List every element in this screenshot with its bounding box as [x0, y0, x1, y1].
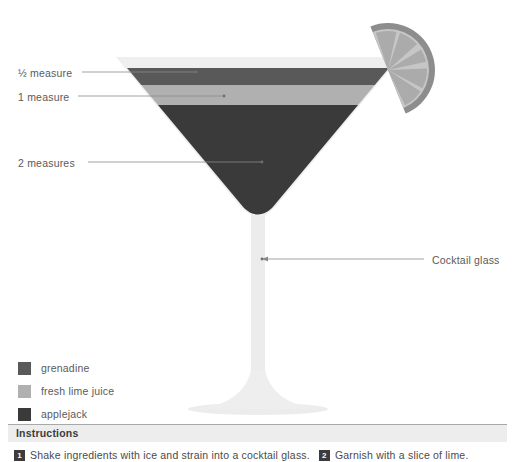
cocktail-diagram-page: ½ measure 1 measure 2 measures Cocktail … — [0, 0, 515, 462]
instructions-header-band — [8, 425, 507, 442]
legend-swatch-fresh-lime-juice — [18, 385, 31, 398]
glass-stem — [251, 210, 265, 370]
glass-illustration — [0, 0, 515, 420]
step-badge-1: 1 — [14, 450, 25, 461]
legend-swatch-applejack — [18, 408, 31, 421]
layer-applejack — [100, 105, 420, 230]
callout-label-half-measure: ½ measure — [18, 68, 72, 79]
instructions-section: Instructions 1 Shake ingredients with ic… — [0, 424, 515, 462]
legend-item-grenadine: grenadine — [18, 358, 218, 378]
callout-label-one-measure: 1 measure — [18, 92, 69, 103]
layer-grenadine — [100, 68, 420, 85]
legend-label-grenadine: grenadine — [41, 363, 90, 374]
instructions-steps: 1 Shake ingredients with ice and strain … — [14, 449, 478, 462]
legend-item-fresh-lime-juice: fresh lime juice — [18, 381, 218, 401]
legend-label-fresh-lime-juice: fresh lime juice — [41, 386, 114, 397]
instructions-title: Instructions — [16, 427, 79, 440]
step-text-2: Garnish with a slice of lime. — [335, 449, 469, 462]
liquid-layers — [100, 68, 420, 230]
callout-label-two-measures: 2 measures — [18, 158, 75, 169]
callout-label-cocktail-glass: Cocktail glass — [432, 255, 500, 266]
step-text-1: Shake ingredients with ice and strain in… — [30, 449, 310, 462]
cocktail-glass-diagram: ½ measure 1 measure 2 measures Cocktail … — [0, 0, 515, 420]
step-badge-2: 2 — [319, 450, 330, 461]
legend-item-applejack: applejack — [18, 404, 218, 424]
ingredient-legend: grenadine fresh lime juice applejack — [18, 358, 218, 427]
legend-swatch-grenadine — [18, 362, 31, 375]
legend-label-applejack: applejack — [41, 409, 87, 420]
